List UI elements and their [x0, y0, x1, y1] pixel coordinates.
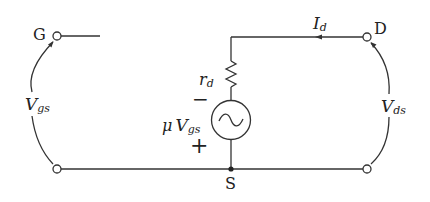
vgs-arc-upper	[31, 42, 53, 92]
sine-wave-icon	[219, 114, 243, 126]
resistor-rd-icon	[226, 61, 236, 87]
vds-arc-lower	[371, 117, 389, 164]
source-value-label: μVgs	[162, 115, 201, 136]
source-terminal-right	[363, 165, 371, 173]
id-label: Id	[312, 13, 327, 34]
vds-arc-upper	[371, 43, 389, 94]
source-terminal-left	[53, 165, 61, 173]
circuit-diagram: G D S Vgs Vds Id rd − + μVgs	[0, 0, 430, 202]
vgs-label: Vgs	[25, 94, 50, 115]
vds-arrow-icon	[371, 42, 377, 48]
gate-label: G	[33, 25, 46, 44]
source-junction-dot	[228, 166, 233, 171]
vds-label: Vds	[381, 96, 406, 117]
gate-terminal	[53, 32, 61, 40]
drain-terminal	[363, 33, 371, 41]
drain-label: D	[374, 19, 387, 38]
source-label: S	[225, 174, 236, 193]
plus-polarity: +	[190, 133, 208, 158]
vgs-arc-lower	[32, 116, 53, 164]
minus-polarity: −	[192, 87, 209, 111]
current-arrow-icon	[315, 35, 322, 40]
